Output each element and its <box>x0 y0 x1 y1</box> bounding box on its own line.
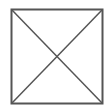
image-placeholder-icon <box>10 8 104 105</box>
canvas <box>0 0 104 106</box>
crossed-box-icon <box>10 8 104 105</box>
